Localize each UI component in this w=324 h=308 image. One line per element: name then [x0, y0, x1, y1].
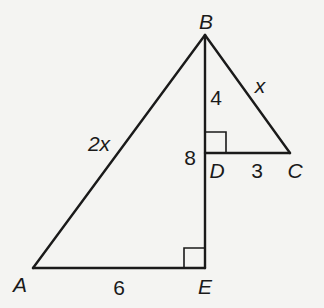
vertex-label-A: A	[13, 274, 27, 295]
vertex-label-E: E	[198, 276, 212, 297]
vertex-label-D: D	[209, 160, 224, 181]
side-label-AE: 6	[113, 277, 125, 298]
side-label-DC: 3	[251, 160, 263, 181]
vertex-label-C: C	[287, 160, 302, 181]
right-angle-marker-E	[184, 248, 205, 268]
side-label-BD: 4	[210, 87, 222, 108]
side-label-BC: x	[255, 75, 266, 96]
side-label-AB: 2x	[88, 133, 110, 154]
side-label-BE: 8	[184, 147, 196, 168]
triangle-diagram	[0, 0, 324, 308]
segment-AB	[33, 35, 205, 268]
right-angle-marker-D	[205, 132, 226, 153]
vertex-label-B: B	[199, 11, 213, 32]
